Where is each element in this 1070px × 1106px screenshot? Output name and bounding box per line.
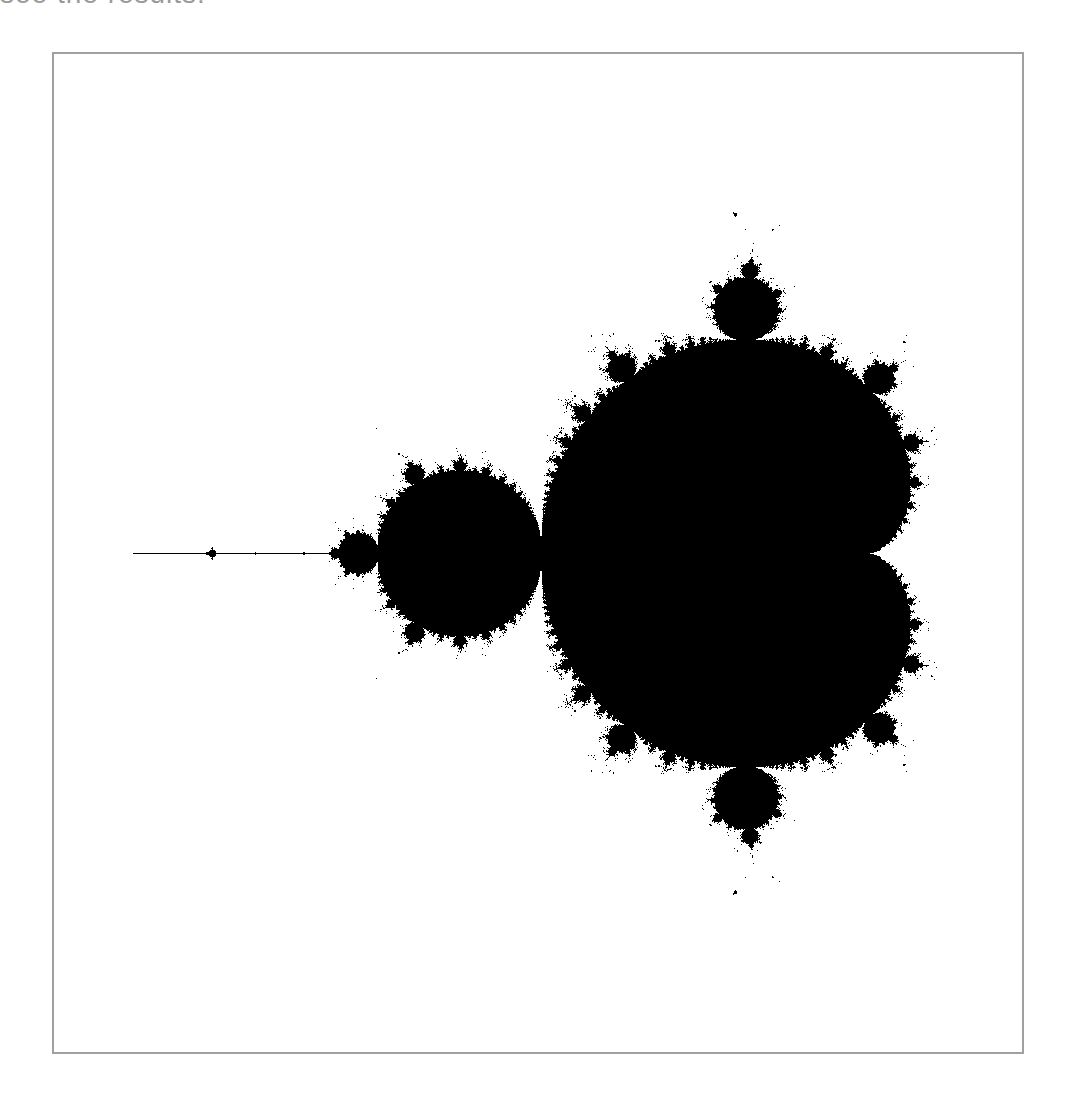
mandelbrot-figure [52, 52, 1024, 1054]
caption-text: see the results: [0, 0, 206, 10]
mandelbrot-canvas [54, 54, 1022, 1052]
